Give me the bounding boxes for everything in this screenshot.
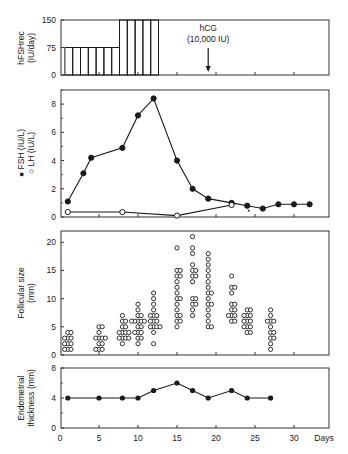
fsh-point [190, 186, 195, 191]
lh-point [120, 209, 125, 214]
y-tick-label: 0 [51, 350, 56, 360]
follicle-point [230, 274, 234, 278]
follicle-point [191, 263, 195, 267]
follicle-point [175, 291, 179, 295]
y-tick-label: 0 [51, 423, 56, 433]
follicle-point [233, 308, 237, 312]
y-tick-label: 4 [51, 393, 56, 403]
follicle-point [120, 313, 124, 317]
follicle-point [194, 297, 198, 301]
y-tick-label: 4 [51, 156, 56, 166]
dose-bar [65, 48, 73, 76]
follicle-point [248, 319, 252, 323]
follicle-point [155, 319, 159, 323]
follicle-point [191, 246, 195, 250]
follicle-point [178, 297, 182, 301]
follicle-point [194, 302, 198, 306]
follicle-point [94, 347, 98, 351]
follicle-point [127, 330, 131, 334]
lh-point [174, 213, 179, 218]
dose-bar [104, 48, 112, 76]
follicle-point [124, 325, 128, 329]
y-tick-label: 75 [47, 43, 57, 53]
follicle-point [233, 302, 237, 306]
follicle-point [152, 342, 156, 346]
x-tick-label: 10 [133, 433, 143, 443]
thickness-point [268, 395, 273, 400]
dose-bar [143, 20, 151, 75]
lh-point [229, 202, 234, 207]
follicle-point [206, 263, 210, 267]
follicle-point [100, 325, 104, 329]
follicle-point [233, 285, 237, 289]
follicle-point [242, 325, 246, 329]
follicle-point [230, 291, 234, 295]
follicle-point [136, 302, 140, 306]
follicle-point [191, 235, 195, 239]
follicle-point [103, 336, 107, 340]
hcg-annotation-label: hCG [199, 23, 216, 33]
follicle-point [226, 313, 230, 317]
hcg-dose-label: (10,000 IU) [187, 34, 230, 44]
thickness-point [96, 395, 101, 400]
follicle-point [100, 347, 104, 351]
x-tick-label: 5 [97, 433, 102, 443]
dose-bar [151, 20, 159, 75]
follicle-point [248, 325, 252, 329]
follicle-point [63, 342, 67, 346]
follicle-point [248, 308, 252, 312]
fsh-point [81, 171, 86, 176]
y-tick-label: 0 [51, 70, 56, 80]
x-axis-title: Days [314, 433, 333, 443]
follicle-point [139, 336, 143, 340]
follicle-point [152, 302, 156, 306]
follicle-point [142, 319, 146, 323]
x-tick-label: 20 [211, 433, 221, 443]
y-tick-label: 0 [51, 212, 56, 222]
follicle-point [206, 268, 210, 272]
follicle-point [206, 280, 210, 284]
follicle-point [269, 325, 273, 329]
follicle-point [206, 297, 210, 301]
follicle-point [152, 291, 156, 295]
follicle-point [130, 319, 134, 323]
follicle-point [148, 313, 152, 317]
follicle-point [155, 313, 159, 317]
follicle-point [269, 313, 273, 317]
x-tick-label: 30 [289, 433, 299, 443]
thickness-point [206, 395, 211, 400]
follicle-point [158, 325, 162, 329]
dose-bar [120, 20, 128, 75]
follicle-point [175, 302, 179, 306]
follicle-point [139, 330, 143, 334]
follicle-point [248, 330, 252, 334]
follicle-point [127, 336, 131, 340]
follicle-point [117, 330, 121, 334]
x-tick-label: 0 [58, 433, 63, 443]
follicle-point [152, 330, 156, 334]
follicle-point [175, 246, 179, 250]
y-tick-label: 2 [51, 184, 56, 194]
follicle-point [152, 308, 156, 312]
x-tick-label: 25 [250, 433, 260, 443]
follicle-point [175, 308, 179, 312]
hormone-levels-panel: 02468● FSH (IU/L)○ LH (IU/L) [16, 90, 329, 222]
fsh-point [260, 206, 265, 211]
follicle-point [265, 319, 269, 323]
thickness-point [135, 395, 140, 400]
dose-bar [135, 20, 143, 75]
follicle-point [194, 274, 198, 278]
follicle-point [194, 268, 198, 272]
follicle-point [63, 336, 67, 340]
hfsh-dose-panel: 075150hCG(10,000 IU)hFSHrec(IU/day) [16, 15, 329, 80]
y-axis-title: hFSHrec(IU/day) [16, 30, 36, 64]
follicle-point [69, 336, 73, 340]
endometrial-thickness-panel: 048Endometrialthickness (mm) [16, 363, 329, 433]
thickness-point [65, 395, 70, 400]
fsh-point [151, 96, 156, 101]
figure: 075150hCG(10,000 IU)hFSHrec(IU/day) 0246… [0, 0, 348, 454]
follicle-point [248, 313, 252, 317]
dose-bar [112, 48, 120, 76]
y-tick-label: 5 [51, 322, 56, 332]
follicle-point [206, 285, 210, 289]
